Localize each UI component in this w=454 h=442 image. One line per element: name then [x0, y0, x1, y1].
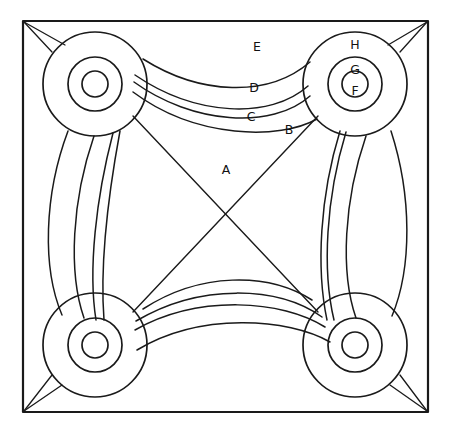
label-a: A — [222, 162, 231, 177]
technical-diagram: HGFEDCBA — [0, 0, 454, 442]
label-f: F — [351, 83, 358, 98]
label-b: B — [285, 122, 294, 137]
label-d: D — [249, 80, 259, 95]
label-h: H — [350, 37, 359, 52]
diagram-background — [0, 0, 454, 442]
label-g: G — [350, 62, 360, 77]
label-e: E — [253, 39, 261, 54]
label-c: C — [247, 109, 256, 124]
figure-canvas: HGFEDCBA — [0, 0, 454, 442]
